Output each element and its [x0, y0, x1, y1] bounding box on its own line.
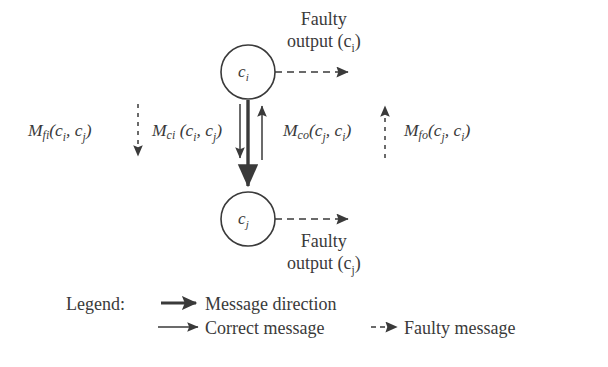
- m-label-base: M: [404, 120, 419, 140]
- caption-line-2-tail: ): [355, 253, 361, 273]
- m-label-sub: ci: [167, 128, 176, 142]
- legend-title: Legend:: [66, 294, 125, 315]
- caption-line-2-tail: ): [355, 31, 361, 51]
- m-label-tail: ): [345, 120, 351, 140]
- m-label-mid: , c: [445, 120, 462, 140]
- message-label-m-fo: Mfo(cj, ci): [404, 120, 470, 144]
- m-label-args: (c: [49, 120, 63, 140]
- m-label-args: (c: [309, 120, 323, 140]
- caption-faulty-output-ci: Faulty output (ci): [287, 8, 361, 55]
- caption-line-2-base: output (c: [287, 31, 352, 51]
- node-label-cj-sub: j: [246, 218, 249, 230]
- m-label-sub: fo: [419, 128, 428, 142]
- caption-faulty-output-cj: Faulty output (cj): [287, 230, 361, 277]
- m-label-mid: , c: [196, 120, 213, 140]
- m-label-base: M: [28, 120, 43, 140]
- m-label-sub: co: [298, 128, 309, 142]
- caption-line-1: Faulty: [287, 8, 361, 30]
- message-label-m-fi: Mfi(ci, cj): [28, 120, 92, 144]
- legend-label-message-direction: Message direction: [205, 294, 336, 315]
- m-label-tail: ): [86, 120, 92, 140]
- diagram-canvas: ci cj Faulty output (ci) Faulty output (…: [0, 0, 608, 367]
- node-label-ci-base: c: [238, 62, 246, 81]
- caption-line-2: output (cj): [287, 252, 361, 277]
- caption-line-2: output (ci): [287, 30, 361, 55]
- m-label-tail: ): [464, 120, 470, 140]
- m-label-args: (c: [428, 120, 442, 140]
- node-label-cj: cj: [238, 209, 249, 231]
- m-label-tail: ): [216, 120, 222, 140]
- node-label-ci-sub: i: [246, 71, 249, 83]
- node-label-ci: ci: [238, 62, 249, 84]
- message-label-m-ci: Mci (ci, cj): [152, 120, 222, 144]
- m-label-base: M: [283, 120, 298, 140]
- message-label-m-co: Mco(cj, ci): [283, 120, 351, 144]
- legend-label-faulty-message: Faulty message: [404, 318, 515, 339]
- caption-line-1: Faulty: [287, 230, 361, 252]
- m-label-args: (c: [175, 120, 193, 140]
- node-label-cj-base: c: [238, 209, 246, 228]
- m-label-mid: , c: [66, 120, 83, 140]
- m-label-base: M: [152, 120, 167, 140]
- legend-label-correct-message: Correct message: [205, 318, 324, 339]
- m-label-mid: , c: [326, 120, 343, 140]
- caption-line-2-base: output (c: [287, 253, 352, 273]
